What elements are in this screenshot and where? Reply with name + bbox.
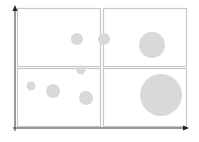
bubble-8 [140, 74, 182, 116]
bubble-6 [46, 84, 60, 98]
bubble-5 [27, 82, 36, 91]
bubble-7 [79, 91, 93, 105]
bubble-4 [77, 66, 86, 75]
y-axis-arrow-icon [13, 5, 18, 11]
bubble-2 [98, 33, 110, 45]
quadrant-top-left [18, 9, 101, 67]
bubbles [27, 32, 183, 116]
bubble-3 [139, 32, 165, 58]
bubble-1 [71, 33, 83, 45]
bubble-quadrant-chart [0, 0, 199, 142]
